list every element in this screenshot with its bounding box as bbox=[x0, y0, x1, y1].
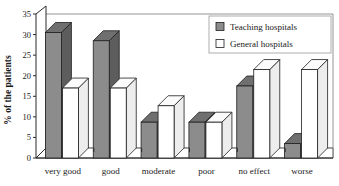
y-tick-label: 5 bbox=[27, 132, 31, 142]
x-axis-labels: very goodgoodmoderatepoorno effectworse bbox=[45, 166, 313, 176]
bar-chart: 05101520253035 very goodgoodmoderatepoor… bbox=[0, 0, 339, 186]
x-axis-label-moderate: moderate bbox=[142, 166, 175, 176]
y-axis: 05101520253035 bbox=[23, 9, 37, 163]
x-axis-label-no-effect: no effect bbox=[238, 166, 270, 176]
y-tick-label: 0 bbox=[27, 153, 31, 163]
bar-general-very-good bbox=[62, 78, 88, 158]
bar-general-poor bbox=[206, 112, 232, 158]
x-axis-label-very-good: very good bbox=[45, 166, 82, 176]
y-tick-label: 20 bbox=[23, 71, 32, 81]
y-tick-label: 35 bbox=[23, 9, 32, 19]
x-axis-label-worse: worse bbox=[291, 166, 313, 176]
bar-general-worse bbox=[302, 60, 328, 158]
y-tick-label: 15 bbox=[23, 91, 32, 101]
y-axis-title: % of the patients bbox=[3, 55, 13, 125]
legend-swatch-teaching-hospitals bbox=[216, 23, 224, 31]
x-axis-label-good: good bbox=[102, 166, 121, 176]
legend-label-teaching-hospitals: Teaching hospitals bbox=[230, 22, 298, 32]
legend-label-general-hospitals: General hospitals bbox=[230, 39, 293, 49]
legend-swatch-general-hospitals bbox=[216, 40, 224, 48]
x-axis-label-poor: poor bbox=[198, 166, 215, 176]
y-tick-label: 25 bbox=[23, 50, 32, 60]
chart-canvas: 05101520253035 very goodgoodmoderatepoor… bbox=[0, 0, 339, 186]
y-tick-label: 10 bbox=[23, 112, 32, 122]
bar-general-moderate bbox=[158, 96, 184, 158]
chart-legend: Teaching hospitals General hospitals bbox=[209, 16, 331, 53]
y-tick-label: 30 bbox=[23, 30, 32, 40]
bar-general-good bbox=[110, 78, 136, 158]
bar-general-no-effect bbox=[254, 60, 280, 158]
